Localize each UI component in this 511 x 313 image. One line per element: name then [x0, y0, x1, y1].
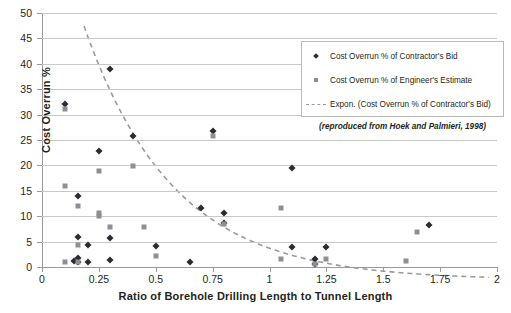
gridline: [42, 140, 497, 141]
x-axis-tick-label: 1.25: [306, 274, 346, 285]
y-axis-tick: [37, 165, 42, 166]
gridline: [42, 13, 497, 14]
data-point: [76, 259, 81, 264]
gridline: [42, 242, 497, 243]
legend-item-contractors-bid: Cost Overrun % of Contractor's Bid: [302, 45, 505, 67]
legend-item-exponential-trend: Expon. (Cost Overrun % of Contractor's B…: [302, 93, 505, 115]
x-axis-tick: [497, 268, 498, 272]
y-axis-tick: [37, 89, 42, 90]
data-point: [62, 184, 67, 189]
gridline: [42, 38, 497, 39]
y-axis-tick-label: 5: [0, 237, 32, 248]
x-axis-tick: [42, 268, 43, 272]
y-axis-tick: [37, 216, 42, 217]
x-axis-tick: [326, 268, 327, 272]
y-axis-tick-label: 50: [0, 8, 32, 19]
y-axis-tick: [37, 242, 42, 243]
legend-item-label: Expon. (Cost Overrun % of Contractor's B…: [330, 100, 491, 109]
x-axis-tick-label: 0.75: [193, 274, 233, 285]
x-axis-tick-label: 1.75: [420, 274, 460, 285]
y-axis-tick-label: 0: [0, 262, 32, 273]
source-attribution: (reproduced from Hoek and Palmieri, 1998…: [301, 122, 504, 132]
data-point: [222, 221, 227, 226]
y-axis-tick: [37, 13, 42, 14]
y-axis-tick-label: 30: [0, 110, 32, 121]
gridline: [42, 191, 497, 192]
x-axis-tick-label: 1.5: [363, 274, 403, 285]
y-axis-tick-label: 45: [0, 33, 32, 44]
data-point: [76, 204, 81, 209]
chart-legend: Cost Overrun % of Contractor's Bid Cost …: [301, 41, 504, 117]
x-axis-title: Ratio of Borehole Drilling Length to Tun…: [0, 290, 511, 302]
x-axis-tick: [213, 268, 214, 272]
y-axis-tick-label: 15: [0, 186, 32, 197]
gridline: [42, 216, 497, 217]
data-point: [96, 214, 101, 219]
y-axis-tick: [37, 140, 42, 141]
data-point: [62, 260, 67, 265]
x-axis-tick: [383, 268, 384, 272]
x-axis-tick: [440, 268, 441, 272]
data-point: [108, 225, 113, 230]
legend-item-engineers-estimate: Cost Overrun % of Engineer's Estimate: [302, 69, 505, 91]
legend-item-label: Cost Overrun % of Contractor's Bid: [330, 52, 458, 61]
data-point: [75, 233, 82, 240]
y-axis-tick-label: 20: [0, 160, 32, 171]
data-point: [62, 107, 67, 112]
x-axis-tick-label: 0.25: [79, 274, 119, 285]
y-axis-tick-label: 35: [0, 84, 32, 95]
y-axis-tick-label: 25: [0, 135, 32, 146]
x-axis-tick: [156, 268, 157, 272]
y-axis-tick: [37, 38, 42, 39]
data-point: [210, 134, 215, 139]
data-point: [278, 206, 283, 211]
data-point: [131, 164, 136, 169]
data-point: [415, 230, 420, 235]
y-axis-tick-label: 40: [0, 59, 32, 70]
y-axis-tick: [37, 191, 42, 192]
data-point: [404, 258, 409, 263]
x-axis-tick-label: 0.5: [136, 274, 176, 285]
data-point: [324, 257, 329, 262]
data-point: [278, 257, 283, 262]
data-point: [96, 168, 101, 173]
scatter-chart: Cost Overrun % Ratio of Borehole Drillin…: [0, 0, 511, 313]
y-axis-tick-label: 10: [0, 211, 32, 222]
x-axis-tick-label: 2: [477, 274, 511, 285]
y-axis-title: Cost Overrun %: [40, 50, 52, 170]
data-point: [76, 243, 81, 248]
y-axis-tick: [37, 115, 42, 116]
x-axis-tick: [99, 268, 100, 272]
dashed-line-icon: [302, 104, 330, 105]
y-axis-tick: [37, 64, 42, 65]
data-point: [142, 225, 147, 230]
legend-item-label: Cost Overrun % of Engineer's Estimate: [330, 76, 472, 85]
data-point: [75, 192, 82, 199]
diamond-marker-icon: [302, 54, 330, 58]
x-axis-tick-label: 0: [22, 274, 62, 285]
x-axis-tick: [270, 268, 271, 272]
data-point: [313, 262, 318, 267]
gridline: [42, 165, 497, 166]
data-point: [153, 253, 158, 258]
square-marker-icon: [302, 78, 330, 82]
x-axis-tick-label: 1: [250, 274, 290, 285]
